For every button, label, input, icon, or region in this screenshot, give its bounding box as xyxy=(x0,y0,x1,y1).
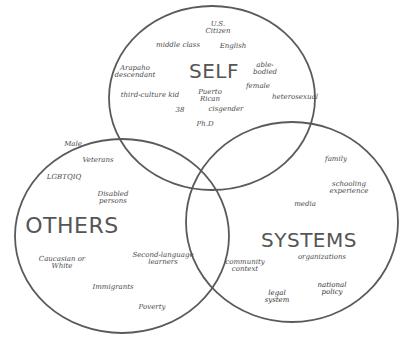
others-title: OTHERS xyxy=(25,215,118,237)
systems-circle xyxy=(186,122,398,322)
others-item: LGBTQIQ xyxy=(47,174,81,181)
self-item: middle class xyxy=(156,42,200,49)
self-item: Arapaho descendant xyxy=(115,65,156,79)
systems-item: organizations xyxy=(298,254,346,261)
self-item: 38 xyxy=(176,107,185,114)
systems-item: family xyxy=(325,156,347,163)
others-item: Second-language learners xyxy=(132,252,193,266)
self-item: able- bodied xyxy=(253,62,277,76)
self-item: third-culture kid xyxy=(121,92,179,99)
self-item: female xyxy=(246,83,270,90)
self-item: cisgender xyxy=(209,106,244,113)
self-title: SELF xyxy=(189,61,239,81)
systems-item: schooling experience xyxy=(329,181,368,195)
others-item: Disabled persons xyxy=(98,191,129,205)
systems-item: media xyxy=(294,201,316,208)
self-item: Ph.D xyxy=(196,121,213,128)
systems-title: SYSTEMS xyxy=(261,230,357,250)
systems-item: legal system xyxy=(265,290,290,304)
others-item: Veterans xyxy=(82,157,113,164)
others-item: Immigrants xyxy=(92,284,133,291)
self-item: U.S. Citizen xyxy=(206,21,231,35)
self-item: English xyxy=(220,43,247,50)
systems-item: national policy xyxy=(318,282,347,296)
self-item: heterosexual xyxy=(272,94,318,101)
self-item: Puerto Rican xyxy=(198,89,222,103)
others-item: Poverty xyxy=(139,304,166,311)
others-item: Male xyxy=(64,141,82,148)
others-item: Caucasian or White xyxy=(39,256,85,270)
systems-item: community context xyxy=(225,259,264,273)
